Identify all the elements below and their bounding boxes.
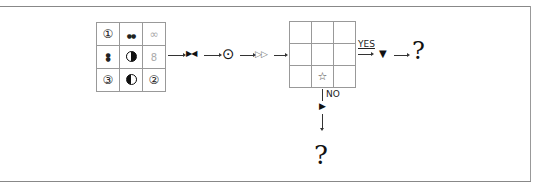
frame-top-border [0, 6, 531, 7]
down-triangle-icon: ▼ [379, 49, 387, 59]
grid-cell: ② [143, 69, 166, 92]
double-dot-horizontal-icon: ●● [127, 32, 135, 39]
half-filled-circle-left-icon [126, 74, 137, 85]
grid-cell: ●● [120, 23, 143, 46]
arrow-line [204, 55, 220, 56]
circle-dot-icon: ⊙ [222, 47, 235, 62]
grid-cell: ∞ [143, 23, 166, 46]
grid-cell: ●● [97, 46, 120, 69]
arrow-line [394, 55, 408, 56]
grid-cell [312, 22, 334, 44]
double-circle-outline-icon: ∞ [149, 28, 158, 41]
circled-two-icon: ② [149, 73, 160, 87]
arrowhead-icon [320, 128, 324, 131]
arrowhead-icon [407, 53, 410, 57]
arrow-line [322, 114, 323, 128]
grid-cell [334, 44, 356, 66]
grid-cell [120, 69, 143, 92]
grid-cell [120, 46, 143, 69]
frame-bottom-border [0, 181, 531, 182]
arrowhead-icon [285, 53, 288, 57]
question-mark-yes: ? [412, 39, 425, 63]
arrow-line [322, 89, 323, 101]
double-outline-triangle-icon: ▷▷ [255, 50, 267, 59]
arrow-line [358, 54, 372, 55]
grid-cell: 8 [143, 46, 166, 69]
arrow-line [168, 55, 184, 56]
bowtie-icon: ▶◀ [186, 50, 196, 58]
symbol-grid: ① ●● ∞ ●● 8 ③ ② [96, 22, 166, 92]
grid-cell [290, 44, 312, 66]
grid-cell: ③ [97, 69, 120, 92]
grid-cell [334, 22, 356, 44]
yes-label: YES [358, 40, 375, 49]
grid-cell [290, 66, 312, 88]
circled-three-icon: ③ [103, 73, 114, 87]
no-label: NO [326, 90, 340, 99]
right-triangle-icon: ▶ [319, 102, 326, 111]
circled-one-icon: ① [103, 27, 114, 41]
double-dot-vertical-icon: ●● [106, 53, 111, 61]
grid-cell [312, 44, 334, 66]
question-mark-no: ? [314, 142, 328, 168]
grid-cell [290, 22, 312, 44]
arrow-line [240, 55, 254, 56]
target-grid: ☆ [289, 21, 356, 88]
arrowhead-icon [371, 52, 374, 56]
frame-right-border [530, 6, 531, 182]
grid-cell [334, 66, 356, 88]
star-icon: ☆ [312, 66, 334, 88]
stacked-circles-outline-icon: 8 [151, 52, 157, 63]
half-filled-circle-right-icon [126, 51, 137, 62]
grid-cell: ① [97, 23, 120, 46]
